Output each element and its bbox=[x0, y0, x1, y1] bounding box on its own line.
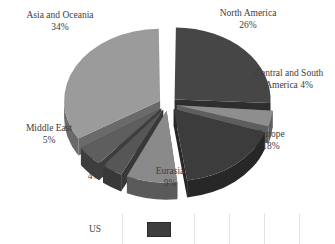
slice-label-central-and-south-america: Central and South America 4% bbox=[243, 68, 335, 91]
pie-chart-figure: Asia and Oceania 34% North America 26% C… bbox=[0, 0, 335, 244]
legend-cell-spacer bbox=[0, 214, 68, 244]
pie-slice-north-america[interactable] bbox=[175, 27, 271, 103]
legend-cell-empty-3 bbox=[265, 214, 300, 244]
slice-label-asia-and-oceania: Asia and Oceania 34% bbox=[6, 10, 114, 33]
legend-cell-empty-4 bbox=[300, 214, 335, 244]
legend-cell-series-label: US bbox=[68, 214, 123, 244]
slice-label-africa: Africa 4% bbox=[66, 159, 122, 182]
legend-label-us: US bbox=[89, 224, 101, 234]
legend-cell-empty-2 bbox=[230, 214, 265, 244]
slice-label-middle-east: Middle East 5% bbox=[5, 123, 93, 146]
legend-cell-empty-1 bbox=[195, 214, 230, 244]
slice-label-eurasia: Eurasia 9% bbox=[137, 166, 203, 189]
legend-swatch-icon bbox=[147, 222, 171, 237]
legend-cell-swatch bbox=[123, 214, 195, 244]
slice-label-europe: Europe 18% bbox=[236, 129, 306, 152]
legend-row: US bbox=[0, 214, 335, 244]
slice-label-north-america: North America 26% bbox=[193, 8, 303, 31]
